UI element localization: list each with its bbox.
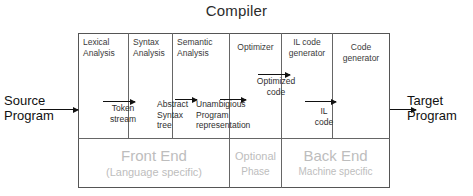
label-line1: Token bbox=[103, 103, 143, 114]
phase-label-line2: Analysis bbox=[83, 48, 130, 59]
phase-label-line1: IL code bbox=[282, 37, 332, 48]
arrow-abstract-syntax-tree bbox=[175, 99, 197, 100]
band-title: Back End bbox=[282, 148, 389, 164]
label-line2: Program bbox=[196, 110, 276, 121]
arrow-optimized-code bbox=[258, 74, 290, 75]
phase-band-divider bbox=[78, 138, 390, 139]
label-line1: Optimized bbox=[250, 76, 302, 87]
band-subtitle: Machine specific bbox=[282, 164, 389, 180]
phase-label-line2: Analysis bbox=[177, 48, 232, 59]
arrow-source-to-compiler bbox=[40, 109, 78, 110]
label-line3: representation bbox=[196, 120, 276, 131]
band-title: Optional bbox=[230, 148, 281, 164]
phase-label-line1: Syntax bbox=[133, 37, 175, 48]
label-line3: tree bbox=[157, 120, 201, 131]
phase-optimizer: Optimizer bbox=[230, 42, 281, 53]
label-line2: stream bbox=[103, 114, 143, 125]
phase-label-line2: Analysis bbox=[133, 48, 175, 59]
phase-lexical-analysis: Lexical Analysis bbox=[80, 37, 130, 59]
label-il-code: IL code bbox=[310, 106, 338, 127]
arrow-compiler-to-target bbox=[390, 109, 416, 110]
band-optional-phase: Optional Phase bbox=[230, 148, 281, 180]
label-optimized-code: Optimized code bbox=[250, 76, 302, 97]
label-unambigious-program-representation: Unambigious Program representation bbox=[196, 99, 276, 131]
label-line2: Syntax bbox=[157, 110, 201, 121]
band-front-end: Front End (Language specific) bbox=[80, 148, 228, 180]
arrow-token-stream bbox=[103, 101, 135, 102]
phase-label-line2: generator bbox=[333, 53, 389, 64]
source-program-label: Source Program bbox=[4, 93, 74, 123]
phase-label-line1: Lexical bbox=[83, 37, 130, 48]
label-token-stream: Token stream bbox=[103, 103, 143, 124]
arrow-il-code bbox=[305, 101, 336, 102]
label-abstract-syntax-tree: Abstract Syntax tree bbox=[157, 99, 201, 131]
band-title: Front End bbox=[80, 148, 228, 164]
phase-label-line1: Semantic bbox=[177, 37, 232, 48]
source-program-line2: Program bbox=[4, 108, 74, 123]
band-back-end: Back End Machine specific bbox=[282, 148, 389, 180]
phase-label-line2: generator bbox=[282, 48, 332, 59]
phase-il-code-generator: IL code generator bbox=[282, 37, 332, 59]
source-program-line1: Source bbox=[4, 93, 74, 108]
phase-syntax-analysis: Syntax Analysis bbox=[130, 37, 175, 59]
diagram-title: Compiler bbox=[0, 2, 473, 19]
phase-label-line1: Optimizer bbox=[230, 42, 281, 53]
label-line2: code bbox=[250, 87, 302, 98]
band-subtitle: (Language specific) bbox=[80, 164, 228, 180]
band-subtitle: Phase bbox=[230, 164, 281, 180]
phase-code-generator: Code generator bbox=[333, 42, 389, 64]
arrow-unambigious-program-representation bbox=[220, 99, 246, 100]
phase-label-line1: Code bbox=[333, 42, 389, 53]
diagram-canvas: Compiler Lexical Analysis Syntax Analysi… bbox=[0, 0, 473, 196]
phase-semantic-analysis: Semantic Analysis bbox=[174, 37, 232, 59]
label-line2: code bbox=[310, 117, 338, 128]
label-line1: Unambigious bbox=[196, 99, 276, 110]
label-line1: IL bbox=[310, 106, 338, 117]
